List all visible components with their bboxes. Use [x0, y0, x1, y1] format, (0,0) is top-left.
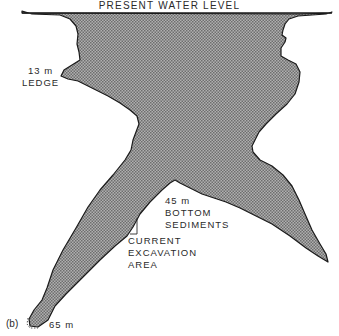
cave-water-body	[22, 11, 332, 327]
bottom-sediments-label: 45 m BOTTOM SEDIMENTS	[165, 195, 229, 231]
bottom-name-line1: BOTTOM	[165, 207, 229, 219]
panel-label: (b)	[6, 318, 18, 330]
ledge-label: 13 m LEDGE	[22, 65, 59, 89]
bottom-name-line2: SEDIMENTS	[165, 219, 229, 231]
ledge-depth: 13 m	[22, 65, 59, 77]
excavation-area-label: CURRENT EXCAVATION AREA	[128, 235, 197, 271]
max-depth-label: 65 m	[49, 319, 74, 331]
excavation-line1: CURRENT	[128, 235, 197, 247]
water-level-label: PRESENT WATER LEVEL	[0, 0, 339, 12]
cave-profile-diagram	[0, 0, 339, 336]
excavation-line3: AREA	[128, 259, 197, 271]
ledge-name: LEDGE	[22, 77, 59, 89]
bottom-depth: 45 m	[165, 195, 229, 207]
excavation-line2: EXCAVATION	[128, 247, 197, 259]
